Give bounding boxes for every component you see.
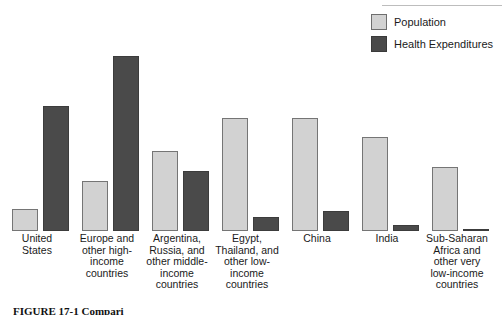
bar-population-1	[82, 181, 108, 231]
bar-population-6	[432, 167, 458, 231]
category-label-line: countries	[142, 279, 212, 291]
figure-container: Population Health Expenditures UnitedSta…	[0, 0, 502, 317]
category-label-line: countries	[212, 279, 282, 291]
category-label-2: Argentina,Russia, andother middle-income…	[142, 233, 212, 291]
category-label-line: United	[5, 233, 69, 245]
category-label-line: countries	[74, 268, 140, 280]
bar-health-expenditures-5	[393, 225, 419, 231]
bar-health-expenditures-1	[113, 56, 139, 231]
bar-health-expenditures-4	[323, 211, 349, 231]
bar-health-expenditures-2	[183, 171, 209, 231]
category-label-line: countries	[423, 279, 491, 291]
bar-health-expenditures-6	[463, 229, 489, 231]
category-label-line: States	[5, 245, 69, 257]
bar-population-4	[292, 118, 318, 231]
figure-caption: FIGURE 17-1 Compari	[13, 306, 124, 315]
category-label-line: Egypt,	[212, 233, 282, 245]
category-label-3: Egypt,Thailand, andother low-incomecount…	[212, 233, 282, 291]
bar-health-expenditures-3	[253, 217, 279, 231]
category-label-5: India	[358, 233, 416, 245]
category-axis-labels: UnitedStatesEurope andother high-incomec…	[0, 233, 502, 305]
category-label-line: Argentina,	[142, 233, 212, 245]
category-label-6: Sub-SaharanAfrica andother verylow-incom…	[423, 233, 491, 291]
category-label-1: Europe andother high-incomecountries	[74, 233, 140, 279]
bar-population-3	[222, 118, 248, 231]
bar-population-0	[12, 209, 38, 231]
category-label-line: China	[288, 233, 346, 245]
bar-population-2	[152, 151, 178, 231]
plot-area	[0, 0, 502, 231]
category-label-line: Europe and	[74, 233, 140, 245]
bar-health-expenditures-0	[43, 106, 69, 231]
bar-population-5	[362, 137, 388, 231]
category-label-0: UnitedStates	[5, 233, 69, 256]
category-label-4: China	[288, 233, 346, 245]
category-label-line: Sub-Saharan	[423, 233, 491, 245]
category-label-line: India	[358, 233, 416, 245]
